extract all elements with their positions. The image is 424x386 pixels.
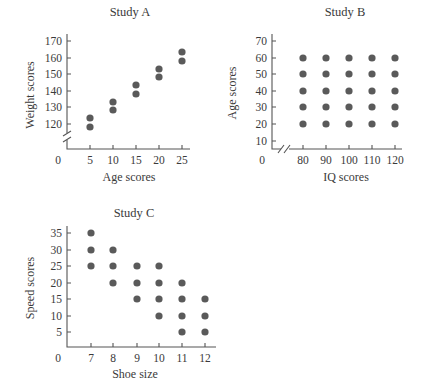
svg-text:40: 40 <box>256 85 268 97</box>
svg-text:5: 5 <box>56 326 62 338</box>
chart-study-a: Study A Weight scores Age scores 120 130… <box>23 5 190 184</box>
x-axis-label: IQ scores <box>323 170 369 184</box>
figure-canvas: Study A Weight scores Age scores 120 130… <box>0 0 424 386</box>
y-ticks: 10 20 30 40 50 60 70 <box>256 35 277 147</box>
svg-text:140: 140 <box>45 85 63 97</box>
svg-text:130: 130 <box>45 101 63 113</box>
svg-text:120: 120 <box>45 118 63 130</box>
svg-text:10: 10 <box>51 310 63 322</box>
svg-text:35: 35 <box>51 227 63 239</box>
svg-text:20: 20 <box>51 277 63 289</box>
svg-text:20: 20 <box>256 118 268 130</box>
svg-text:7: 7 <box>88 352 94 364</box>
svg-text:120: 120 <box>386 154 404 166</box>
svg-text:100: 100 <box>340 154 358 166</box>
x-axis-label: Age scores <box>103 170 156 184</box>
svg-text:0: 0 <box>55 352 61 364</box>
axes <box>67 34 190 149</box>
chart-title: Study C <box>114 206 155 220</box>
svg-text:20: 20 <box>153 154 165 166</box>
svg-text:15: 15 <box>51 293 63 305</box>
svg-text:25: 25 <box>176 154 188 166</box>
svg-text:15: 15 <box>130 154 142 166</box>
chart-study-b: Study B Age scores IQ scores 10 20 30 40… <box>225 5 404 184</box>
svg-text:50: 50 <box>256 68 268 80</box>
svg-text:150: 150 <box>45 68 63 80</box>
y-axis-label: Weight scores <box>23 61 37 129</box>
data-points <box>299 54 398 127</box>
svg-text:60: 60 <box>256 52 268 64</box>
x-ticks: 0 7 8 9 10 11 12 <box>55 343 211 364</box>
y-axis-label: Speed scores <box>23 257 37 320</box>
svg-text:110: 110 <box>364 154 381 166</box>
svg-text:10: 10 <box>153 352 165 364</box>
axes <box>272 34 402 149</box>
svg-text:80: 80 <box>297 154 309 166</box>
x-ticks: 0 5 10 15 20 25 <box>55 145 188 166</box>
svg-text:5: 5 <box>87 154 93 166</box>
svg-text:9: 9 <box>134 352 140 364</box>
svg-text:8: 8 <box>110 352 116 364</box>
svg-text:0: 0 <box>259 154 265 166</box>
svg-text:12: 12 <box>199 352 211 364</box>
x-axis-label: Shoe size <box>112 367 158 381</box>
x-ticks: 0 80 90 100 110 120 <box>259 145 404 166</box>
svg-text:10: 10 <box>107 154 119 166</box>
svg-text:11: 11 <box>176 352 187 364</box>
chart-title: Study A <box>110 5 151 19</box>
svg-text:10: 10 <box>256 135 268 147</box>
y-axis-label: Age scores <box>225 66 239 119</box>
svg-text:70: 70 <box>256 35 268 47</box>
svg-text:170: 170 <box>45 35 63 47</box>
chart-study-c: Study C Speed scores Shoe size 5 10 15 2… <box>23 206 216 381</box>
y-ticks: 5 10 15 20 25 30 35 <box>51 227 72 338</box>
svg-text:160: 160 <box>45 52 63 64</box>
svg-text:30: 30 <box>256 101 268 113</box>
data-points <box>87 229 208 335</box>
axes <box>67 226 216 347</box>
svg-text:90: 90 <box>320 154 332 166</box>
chart-title: Study B <box>325 5 366 19</box>
svg-text:0: 0 <box>55 154 61 166</box>
svg-text:30: 30 <box>51 244 63 256</box>
data-points <box>86 48 185 130</box>
svg-text:25: 25 <box>51 260 63 272</box>
